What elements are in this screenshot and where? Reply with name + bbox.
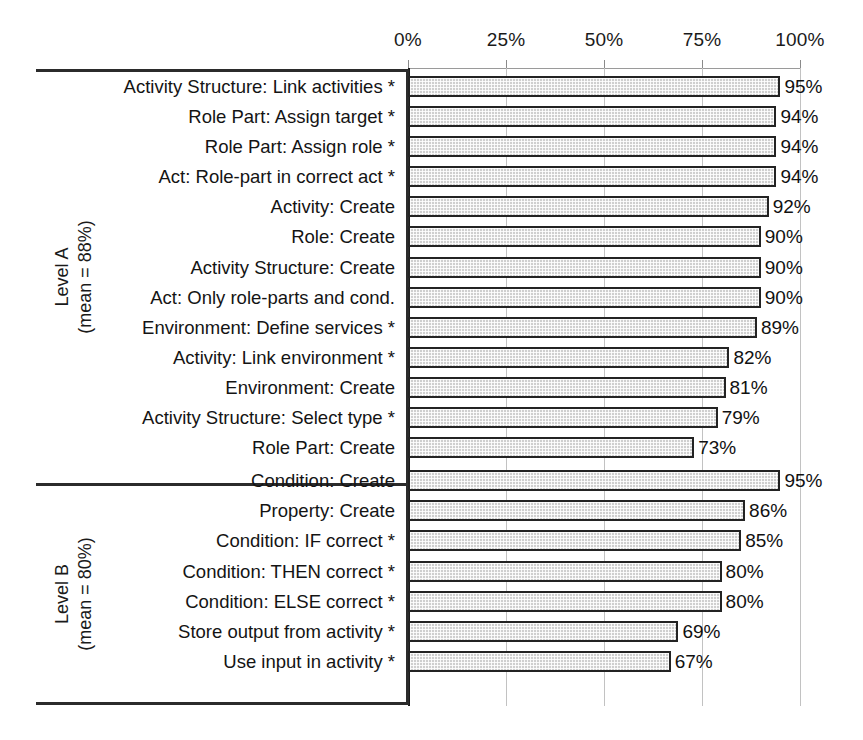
bar <box>408 500 745 521</box>
category-label: Activity Structure: Create <box>190 253 395 283</box>
category-label: Use input in activity * <box>223 647 395 677</box>
bar <box>408 621 678 642</box>
category-label: Environment: Create <box>225 373 395 403</box>
category-label: Activity Structure: Select type * <box>142 403 395 433</box>
bar-row: Role Part: Assign role *94% <box>0 132 863 162</box>
bar-track: 82% <box>408 343 863 373</box>
category-label: Condition: Create <box>251 466 395 496</box>
horizontal-bar-chart: 0%25%50%75%100% Level A (mean = 88%) Lev… <box>0 0 863 740</box>
bar <box>408 530 741 551</box>
bar-row: Activity Structure: Select type *79% <box>0 403 863 433</box>
bar-rows: Activity Structure: Link activities *95%… <box>0 72 863 677</box>
category-label: Role Part: Assign target * <box>188 102 395 132</box>
bar-value-label: 94% <box>776 102 818 131</box>
category-label: Condition: THEN correct * <box>183 557 396 587</box>
bar-track: 94% <box>408 102 863 132</box>
bar-row: Environment: Create81% <box>0 373 863 403</box>
bar-track: 85% <box>408 526 863 556</box>
bar-value-label: 90% <box>761 253 803 282</box>
category-label: Act: Role-part in correct act * <box>159 162 395 192</box>
category-label: Condition: ELSE correct * <box>185 587 395 617</box>
bar-row: Property: Create86% <box>0 496 863 526</box>
bar-value-label: 69% <box>678 617 720 646</box>
bar-row: Condition: ELSE correct *80% <box>0 587 863 617</box>
bar <box>408 136 776 157</box>
table-rule-bottom <box>36 702 409 705</box>
x-tick-label: 50% <box>585 28 624 52</box>
bar <box>408 407 718 428</box>
bar-row: Activity Structure: Link activities *95% <box>0 72 863 102</box>
x-tick-label: 100% <box>775 28 824 52</box>
bar-row: Role Part: Assign target *94% <box>0 102 863 132</box>
bar-track: 95% <box>408 72 863 102</box>
bar-value-label: 85% <box>741 526 783 555</box>
bar <box>408 651 671 672</box>
category-label: Activity: Create <box>271 192 395 222</box>
bar-row: Act: Role-part in correct act *94% <box>0 162 863 192</box>
category-label: Role Part: Create <box>252 433 395 463</box>
bar <box>408 257 761 278</box>
bar-row: Use input in activity *67% <box>0 647 863 677</box>
category-label: Environment: Define services * <box>142 313 395 343</box>
bar <box>408 106 776 127</box>
bar-track: 79% <box>408 403 863 433</box>
bar-row: Store output from activity *69% <box>0 617 863 647</box>
bar-track: 92% <box>408 192 863 222</box>
bar-value-label: 90% <box>761 283 803 312</box>
x-tick-label: 25% <box>487 28 526 52</box>
bar-track: 94% <box>408 132 863 162</box>
bar-track: 89% <box>408 313 863 343</box>
bar <box>408 591 722 612</box>
bar <box>408 470 780 491</box>
bar-row: Environment: Define services *89% <box>0 313 863 343</box>
bar-value-label: 94% <box>776 132 818 161</box>
bar-track: 81% <box>408 373 863 403</box>
bar-value-label: 94% <box>776 162 818 191</box>
bar <box>408 317 757 338</box>
bar-value-label: 89% <box>757 313 799 342</box>
bar <box>408 226 761 247</box>
bar-row: Condition: Create95% <box>0 466 863 496</box>
bar-row: Condition: THEN correct *80% <box>0 557 863 587</box>
bar <box>408 166 776 187</box>
bar-value-label: 67% <box>671 647 713 676</box>
category-label: Role: Create <box>291 222 395 252</box>
x-tick-label: 0% <box>394 28 422 52</box>
bar-row: Role Part: Create73% <box>0 433 863 463</box>
bar-value-label: 80% <box>722 587 764 616</box>
bar-value-label: 82% <box>729 343 771 372</box>
bar-track: 90% <box>408 283 863 313</box>
bar-row: Act: Only role-parts and cond.90% <box>0 283 863 313</box>
bar <box>408 287 761 308</box>
category-label: Act: Only role-parts and cond. <box>150 283 395 313</box>
bar-row: Role: Create90% <box>0 222 863 252</box>
bar <box>408 437 694 458</box>
bar-value-label: 92% <box>769 192 811 221</box>
bar-track: 86% <box>408 496 863 526</box>
bar-track: 73% <box>408 433 863 463</box>
category-label: Activity Structure: Link activities * <box>124 72 395 102</box>
bar-track: 95% <box>408 466 863 496</box>
category-label: Property: Create <box>259 496 395 526</box>
bar-value-label: 95% <box>780 466 822 495</box>
bar-row: Activity: Create92% <box>0 192 863 222</box>
bar-value-label: 86% <box>745 496 787 525</box>
bar-row: Activity Structure: Create90% <box>0 253 863 283</box>
bar-value-label: 73% <box>694 433 736 462</box>
category-label: Condition: IF correct * <box>216 526 395 556</box>
bar-value-label: 81% <box>726 373 768 402</box>
bar-track: 90% <box>408 222 863 252</box>
category-label: Store output from activity * <box>178 617 395 647</box>
bar-value-label: 90% <box>761 222 803 251</box>
bar-row: Activity: Link environment *82% <box>0 343 863 373</box>
category-label: Role Part: Assign role * <box>205 132 395 162</box>
x-axis-tick-labels: 0%25%50%75%100% <box>408 28 800 54</box>
bar-value-label: 80% <box>722 557 764 586</box>
bar-row: Condition: IF correct *85% <box>0 526 863 556</box>
bar <box>408 561 722 582</box>
x-tick-label: 75% <box>683 28 722 52</box>
bar-track: 80% <box>408 587 863 617</box>
bar-track: 69% <box>408 617 863 647</box>
bar-value-label: 95% <box>780 72 822 101</box>
bar-track: 90% <box>408 253 863 283</box>
